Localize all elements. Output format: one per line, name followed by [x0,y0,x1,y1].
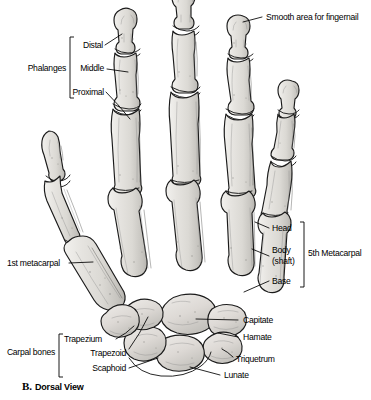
little-middle-phalanx [271,114,295,160]
carpal-bones-bracket [59,334,63,377]
fifth-metacarpal-bracket [300,222,304,287]
little-distal-phalanx [278,80,299,119]
label-scaphoid: Scaphoid [92,363,126,373]
label-trapezium: Trapezium [64,334,102,344]
middle-distal-phalanx [172,0,195,29]
second-metacarpal [108,188,147,277]
label-triquetrum: Triquetrum [236,354,275,364]
index-distal-phalanx [114,8,137,54]
middle-finger-bones [169,0,201,184]
little-finger-bones [261,80,299,218]
fourth-metacarpal [221,191,255,276]
label-hamate: Hamate [243,332,272,342]
hand-skeleton-figure: Smooth area for fingernail Distal Phalan… [0,0,371,400]
capitate-bone [161,294,217,334]
index-finger-bones [111,8,142,193]
label-carpal-bones: Carpal bones [7,347,55,357]
label-base: Base [272,276,291,286]
thumb-distal-phalanx [42,131,65,182]
caption-letter: B. [22,380,32,392]
label-trapezoid: Trapezoid [90,348,126,358]
thumb-bones [42,131,125,311]
first-metacarpal [64,236,125,311]
ring-distal-phalanx [227,15,250,59]
label-first-metacarpal: 1st metacarpal [7,258,60,268]
third-metacarpal [166,180,202,271]
ring-proximal-phalanx [224,114,256,196]
label-fifth-metacarpal: 5th Metacarpal [308,248,362,258]
label-head: Head [272,223,292,233]
ring-middle-phalanx [227,58,254,115]
label-middle: Middle [80,63,104,73]
ring-finger-bones [224,15,256,196]
label-proximal: Proximal [73,87,105,97]
label-lunate: Lunate [224,370,249,380]
metacarpal-bones [108,180,291,293]
label-capitate: Capitate [243,315,273,325]
leader-lunate [190,367,220,375]
label-phalanges: Phalanges [28,63,66,73]
label-smooth-area: Smooth area for fingernail [266,12,359,22]
little-proximal-phalanx [261,161,292,218]
label-shaft: (shaft) [272,256,295,266]
caption-text: Dorsal View [35,382,85,392]
label-body: Body [272,245,292,255]
label-distal: Distal [83,40,103,50]
hand-skeleton-illustration: Smooth area for fingernail Distal Phalan… [0,0,371,400]
